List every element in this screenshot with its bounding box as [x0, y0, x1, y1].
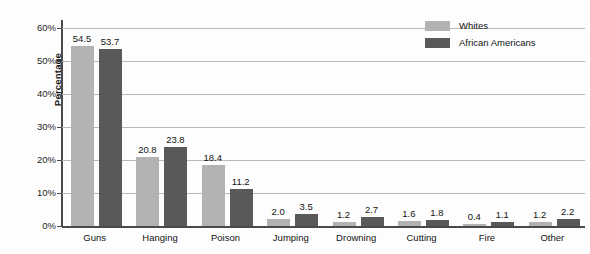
bar-group: 18.411.2 — [193, 22, 258, 226]
bar-value-label: 53.7 — [93, 36, 127, 47]
y-axis-tick-label: 40% — [14, 88, 56, 99]
y-axis-tick-label: 30% — [14, 121, 56, 132]
bar-dark — [295, 214, 318, 226]
bar-dark — [491, 222, 514, 226]
bar-group: 20.823.8 — [127, 22, 192, 226]
y-axis-tick-label: 10% — [14, 187, 56, 198]
legend-swatch-icon — [425, 21, 450, 31]
bar-light — [136, 157, 159, 226]
bar-value-label: 3.5 — [289, 201, 323, 212]
bar-dark — [164, 147, 187, 226]
bar-group: 1.61.8 — [389, 22, 454, 226]
bar-light — [202, 165, 225, 226]
bar-dark — [557, 219, 580, 226]
bar-value-label: 11.2 — [224, 176, 258, 187]
legend-item: African Americans — [425, 35, 536, 50]
bar-group: 1.22.7 — [324, 22, 389, 226]
legend-item: Whites — [425, 18, 536, 33]
legend-item-label: Whites — [459, 20, 488, 31]
bar-value-label: 2.7 — [355, 204, 389, 215]
bar-value-label: 18.4 — [196, 152, 230, 163]
y-axis-tick-label: 0% — [14, 220, 56, 231]
bar-light — [463, 224, 486, 226]
chart-legend: WhitesAfrican Americans — [425, 18, 536, 52]
bar-value-label: 2.2 — [551, 206, 585, 217]
bar-light — [398, 221, 421, 226]
legend-item-label: African Americans — [459, 37, 536, 48]
bar-light — [333, 222, 356, 226]
axis-baseline — [62, 226, 585, 228]
bar-value-label: 1.8 — [420, 207, 454, 218]
y-axis-tick-label: 60% — [14, 22, 56, 33]
bar-dark — [230, 189, 253, 226]
bar-group: 1.22.2 — [520, 22, 585, 226]
y-axis-tick-label: 50% — [14, 55, 56, 66]
bar-dark — [426, 220, 449, 226]
bar-group: 54.553.7 — [62, 22, 127, 226]
bar-value-label: 20.8 — [130, 144, 164, 155]
bar-light — [267, 219, 290, 226]
bar-dark — [99, 49, 122, 226]
bar-light — [71, 46, 94, 226]
x-axis-category-label: Other — [509, 232, 590, 243]
bar-value-label: 1.1 — [485, 209, 519, 220]
legend-swatch-icon — [425, 38, 450, 48]
bar-group: 0.41.1 — [454, 22, 519, 226]
bar-dark — [361, 217, 384, 226]
plot-area: 54.553.720.823.818.411.22.03.51.22.71.61… — [62, 22, 585, 226]
y-axis-tick-label: 20% — [14, 154, 56, 165]
bar-group: 2.03.5 — [258, 22, 323, 226]
bar-value-label: 23.8 — [158, 134, 192, 145]
bar-chart: Percentage 0%10%20%30%40%50%60% 54.553.7… — [0, 0, 590, 254]
bar-light — [529, 222, 552, 226]
